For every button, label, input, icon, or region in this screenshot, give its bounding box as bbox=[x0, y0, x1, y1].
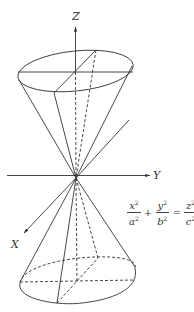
plus-sign: + bbox=[144, 207, 152, 218]
x-axis-label: X bbox=[10, 238, 20, 251]
fraction-y: y2 b2 bbox=[155, 197, 169, 228]
lower-ellipse-front bbox=[20, 268, 136, 304]
upper-cone-left-generator bbox=[19, 80, 76, 178]
upper-ellipse-diameter bbox=[54, 50, 96, 93]
lower-cone-hidden-axis bbox=[76, 178, 77, 281]
fraction-x: x2 a2 bbox=[127, 197, 141, 228]
x-axis bbox=[24, 178, 76, 233]
cone-equation: x2 a2 + y2 b2 = z2 c2 bbox=[126, 197, 194, 228]
upper-cone-front-generator bbox=[54, 93, 76, 178]
lower-ellipse-back bbox=[20, 257, 135, 283]
elliptic-cone-diagram: Z Y X bbox=[0, 0, 194, 312]
upper-cone-hidden-axis bbox=[76, 72, 77, 178]
fraction-z: z2 c2 bbox=[184, 197, 194, 228]
lower-cone-hidden-generator bbox=[76, 178, 98, 258]
equals-sign: = bbox=[172, 207, 180, 218]
z-axis-label: Z bbox=[71, 10, 80, 23]
x-axis-extension bbox=[76, 120, 129, 178]
lower-cone-front-generator bbox=[57, 178, 76, 303]
y-axis-label: Y bbox=[153, 169, 162, 182]
lower-cone-left-generator bbox=[20, 178, 76, 282]
